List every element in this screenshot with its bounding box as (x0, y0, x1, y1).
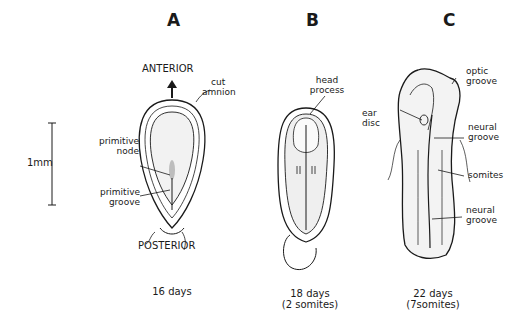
embryo-illustrations (0, 0, 525, 320)
embryo-b (278, 108, 334, 270)
anterior-arrow-icon (167, 80, 177, 98)
anterior-label: ANTERIOR (142, 63, 193, 74)
label-ear-disc: ear disc (362, 108, 380, 128)
label-cut-amnion: cut amnion (202, 77, 236, 97)
caption-c: 22 days (7somites) (400, 288, 466, 310)
panel-letter-c: C (443, 10, 455, 30)
label-neural-groove-upper: neural groove (468, 122, 499, 142)
posterior-label: POSTERIOR (138, 240, 195, 251)
panel-letter-a: A (167, 10, 180, 30)
label-neural-groove-lower: neural groove (466, 205, 497, 225)
caption-b: 18 days (2 somites) (277, 288, 343, 310)
label-head-process: head process (307, 75, 347, 95)
label-primitive-node: primitive node (87, 136, 139, 156)
embryo-a (139, 100, 205, 250)
embryo-c (388, 69, 470, 259)
label-primitive-groove: primitive groove (94, 187, 140, 207)
label-optic-groove: optic groove (466, 66, 497, 86)
caption-a: 16 days (142, 286, 202, 297)
label-somites: somites (468, 170, 503, 180)
scale-bar-label: 1mm (27, 158, 53, 168)
panel-letter-b: B (306, 10, 319, 30)
